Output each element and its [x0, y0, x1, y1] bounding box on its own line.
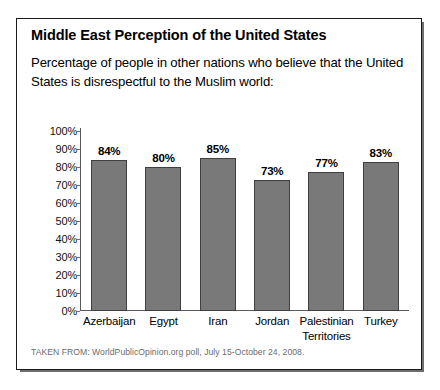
y-axis-tick-mark	[76, 311, 80, 312]
y-axis-tick-label: 100%	[31, 125, 77, 137]
y-axis-tick-label: 90%	[31, 143, 77, 155]
y-axis-tick-label: 70%	[31, 179, 77, 191]
chart-subtitle: Percentage of people in other nations wh…	[31, 53, 409, 91]
y-axis-tick-label: 60%	[31, 197, 77, 209]
bar-value-label: 85%	[191, 143, 245, 155]
page-title: Middle East Perception of the United Sta…	[31, 27, 326, 43]
bar-slot	[82, 131, 136, 311]
bar-value-label: 77%	[299, 157, 353, 169]
bar	[91, 160, 127, 311]
y-axis-tick-mark	[76, 203, 80, 204]
bar-value-label: 73%	[245, 165, 299, 177]
bar-value-label: 80%	[136, 152, 190, 164]
y-axis-tick-mark	[76, 293, 80, 294]
bar	[254, 180, 290, 311]
y-axis-tick-label: 50%	[31, 215, 77, 227]
y-axis-tick-mark	[76, 239, 80, 240]
y-axis-tick-mark	[76, 221, 80, 222]
bar-value-label: 84%	[82, 145, 136, 157]
y-axis-tick-labels: 100%90%80%70%60%50%40%30%20%10%0%	[31, 111, 77, 311]
y-axis-tick-mark	[76, 275, 80, 276]
y-axis-line	[80, 128, 81, 311]
bar-chart: 100%90%80%70%60%50%40%30%20%10%0% 84%80%…	[31, 111, 409, 323]
y-axis-tick-label: 0%	[31, 305, 77, 317]
y-axis-tick-label: 30%	[31, 251, 77, 263]
y-axis-tick-mark	[76, 167, 80, 168]
chart-panel: Middle East Perception of the United Sta…	[16, 18, 422, 370]
y-axis-tick-mark	[76, 149, 80, 150]
bar-series: 84%80%85%73%77%83%	[82, 131, 408, 311]
bar-slot	[191, 131, 245, 311]
y-axis-tick-mark	[76, 185, 80, 186]
x-axis-category-label: Turkey	[346, 314, 416, 329]
y-axis-tick-label: 10%	[31, 287, 77, 299]
y-axis-tick-label: 80%	[31, 161, 77, 173]
bar-slot	[245, 131, 299, 311]
bar	[145, 167, 181, 311]
bar	[363, 162, 399, 311]
y-axis-tick-label: 40%	[31, 233, 77, 245]
y-axis-tick-mark	[76, 257, 80, 258]
y-axis-tick-label: 20%	[31, 269, 77, 281]
bar	[308, 172, 344, 311]
bar	[200, 158, 236, 311]
bar-value-label: 83%	[354, 147, 408, 159]
y-axis-tick-mark	[76, 131, 80, 132]
source-note: TAKEN FROM: WorldPublicOpinion.org poll,…	[31, 347, 304, 357]
